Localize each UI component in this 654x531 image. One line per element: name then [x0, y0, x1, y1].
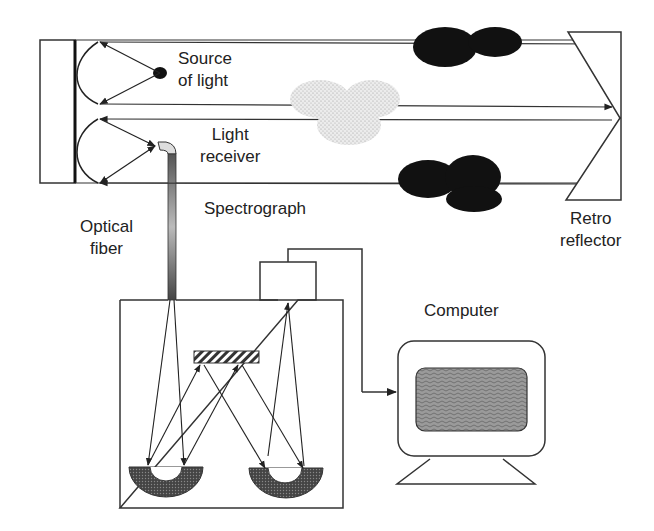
diagram-canvas — [0, 0, 654, 531]
label-line: fiber — [80, 238, 133, 260]
spectrograph — [120, 249, 362, 508]
light-source — [100, 42, 167, 104]
label-retro-reflector: Retro reflector — [560, 208, 621, 252]
optical-fiber — [168, 154, 176, 300]
label-line: receiver — [200, 146, 260, 168]
computer-screen — [416, 368, 527, 431]
label-source-of-light: Source of light — [178, 48, 232, 92]
grating — [194, 351, 259, 363]
label-line: Retro — [560, 208, 621, 230]
label-line: reflector — [560, 230, 621, 252]
label-light-receiver: Light receiver — [200, 124, 260, 168]
computer — [397, 341, 545, 484]
label-computer: Computer — [424, 300, 499, 322]
label-line: Optical — [80, 216, 133, 238]
label-line: Light — [200, 124, 260, 146]
light-receiver — [100, 119, 176, 183]
computer-stand — [397, 459, 535, 484]
retro-reflector — [566, 32, 621, 200]
label-line: Source — [178, 48, 232, 70]
label-optical-fiber: Optical fiber — [80, 216, 133, 260]
diagram-stage: Source of light Light receiver Spectrogr… — [0, 0, 654, 531]
label-spectrograph: Spectrograph — [204, 198, 306, 220]
label-line: of light — [178, 70, 232, 92]
detector — [260, 262, 316, 300]
